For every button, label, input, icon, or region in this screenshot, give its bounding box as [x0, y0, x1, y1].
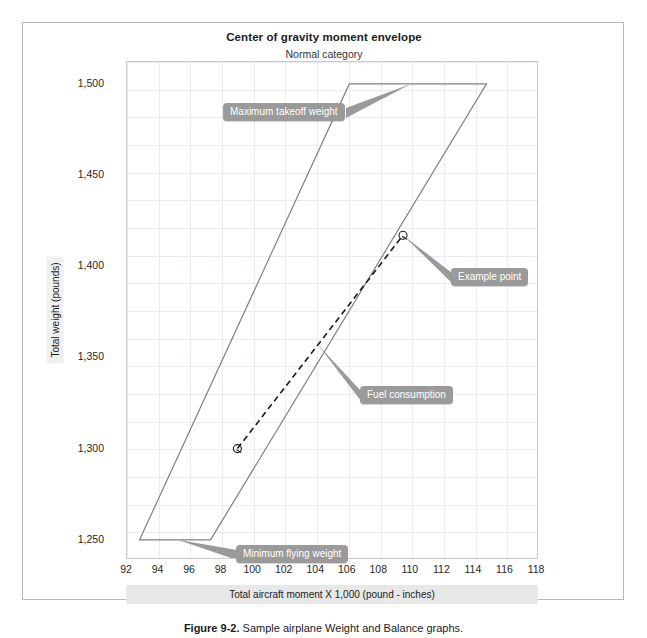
- y-tick-1350: 1,350: [44, 350, 104, 362]
- plot-area: [126, 61, 538, 559]
- chart-canvas: [127, 62, 537, 558]
- chart-title: Center of gravity moment envelope: [23, 31, 625, 43]
- x-tick-118: 118: [516, 563, 556, 575]
- callout-max-takeoff-weight: Maximum takeoff weight: [223, 103, 345, 121]
- figure-frame: Center of gravity moment envelope Normal…: [22, 22, 624, 600]
- leader-minimum-flying-weight: [178, 540, 238, 558]
- annotation-leader-lines: [178, 84, 453, 558]
- callout-example-point: Example point: [451, 268, 528, 286]
- fuel-consumption-line: [237, 235, 403, 448]
- y-tick-1500: 1,500: [44, 77, 104, 89]
- callout-fuel-consumption: Fuel consumption: [360, 386, 453, 404]
- x-axis-title: Total aircraft moment X 1,000 (pound - i…: [126, 585, 538, 604]
- cg-envelope-polygon: [140, 84, 487, 540]
- figure-caption: Figure 9-2. Sample airplane Weight and B…: [0, 622, 647, 634]
- leader-example-point: [403, 235, 452, 283]
- y-tick-1450: 1,450: [44, 168, 104, 180]
- leader-max-takeoff-weight: [346, 84, 411, 118]
- y-tick-1250: 1,250: [44, 533, 104, 545]
- leader-fuel-consumption: [318, 345, 361, 401]
- figure-caption-text: Sample airplane Weight and Balance graph…: [243, 622, 464, 634]
- y-tick-1400: 1,400: [44, 259, 104, 271]
- callout-minimum-flying-weight: Minimum flying weight: [236, 545, 348, 563]
- y-axis-title: Total weight (pounds): [47, 256, 64, 363]
- figure-caption-prefix: Figure 9-2.: [184, 622, 240, 634]
- y-tick-1300: 1,300: [44, 442, 104, 454]
- chart-subtitle: Normal category: [23, 48, 625, 60]
